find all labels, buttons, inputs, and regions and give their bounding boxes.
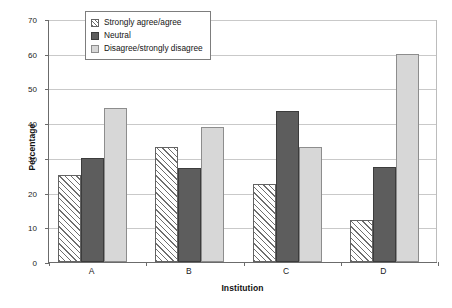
bar[interactable]	[253, 184, 276, 262]
chart-figure: Percentage 010203040506070 ABCD Institut…	[0, 0, 452, 308]
bar[interactable]	[81, 158, 104, 262]
bar[interactable]	[155, 147, 178, 262]
bar[interactable]	[299, 147, 322, 262]
bar[interactable]	[201, 127, 224, 262]
y-tick-label: 50	[28, 85, 37, 94]
bar-group	[341, 20, 438, 262]
x-axis-title: Institution	[48, 283, 437, 293]
x-tick-label: C	[283, 266, 289, 276]
legend-label-disagree: Disagree/strongly disagree	[104, 43, 203, 54]
x-tick-label: A	[89, 266, 95, 276]
chart-legend: Strongly agree/agree Neutral Disagree/st…	[85, 11, 211, 60]
x-tick-mark	[438, 262, 439, 266]
x-axis-category-labels: ABCD	[48, 266, 437, 280]
legend-item[interactable]: Neutral	[91, 29, 203, 42]
y-tick-label: 10	[28, 224, 37, 233]
legend-swatch-disagree	[91, 45, 99, 53]
x-tick-label: B	[186, 266, 192, 276]
y-tick-label: 0	[33, 259, 37, 268]
bar[interactable]	[178, 168, 201, 262]
bar[interactable]	[276, 111, 299, 262]
legend-swatch-strongly-agree	[91, 19, 99, 27]
y-tick-label: 60	[28, 50, 37, 59]
legend-swatch-neutral	[91, 32, 99, 40]
bar[interactable]	[104, 108, 127, 262]
bar[interactable]	[396, 54, 419, 262]
legend-item[interactable]: Disagree/strongly disagree	[91, 42, 203, 55]
legend-item[interactable]: Strongly agree/agree	[91, 16, 203, 29]
y-axis-tick-labels: 010203040506070	[0, 20, 44, 263]
legend-label-neutral: Neutral	[104, 30, 131, 41]
bar[interactable]	[373, 167, 396, 262]
y-tick-label: 30	[28, 154, 37, 163]
y-tick-label: 70	[28, 16, 37, 25]
y-tick-label: 40	[28, 120, 37, 129]
bar[interactable]	[350, 220, 373, 262]
bar-group	[244, 20, 341, 262]
bar[interactable]	[58, 175, 81, 262]
legend-label-strongly-agree: Strongly agree/agree	[104, 17, 182, 28]
x-tick-label: D	[380, 266, 386, 276]
y-tick-label: 20	[28, 189, 37, 198]
